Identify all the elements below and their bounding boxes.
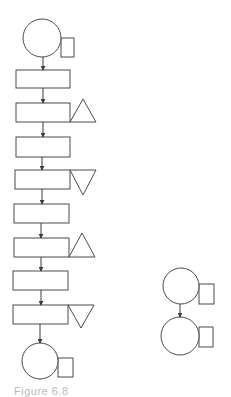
- triangle-down-icon: [70, 170, 96, 195]
- main-process-chain: [13, 19, 96, 379]
- storage-tab: [199, 284, 214, 304]
- process-step-box: [14, 238, 69, 257]
- storage-tab: [61, 38, 74, 57]
- storage-tab: [58, 358, 73, 377]
- process-step-box: [13, 271, 68, 290]
- process-step-box: [14, 204, 69, 223]
- process-step-box: [16, 70, 70, 88]
- side-node-2: [161, 317, 213, 355]
- process-step-box: [13, 305, 68, 324]
- start-node: [23, 19, 74, 57]
- triangle-up-icon: [70, 99, 96, 122]
- figure-caption: Figure 6.8: [14, 385, 69, 397]
- side-node-1: [163, 268, 214, 304]
- process-step-box: [15, 170, 70, 189]
- end-node: [22, 343, 73, 379]
- side-process-chain: [161, 268, 214, 355]
- storage-tab: [199, 327, 213, 347]
- operation-circle: [161, 317, 199, 355]
- operation-circle: [23, 19, 61, 57]
- process-step-box: [16, 137, 70, 157]
- operation-circle: [22, 343, 58, 379]
- operation-circle: [163, 268, 199, 304]
- triangle-down-icon: [68, 305, 94, 328]
- triangle-up-icon: [69, 233, 95, 257]
- process-step-box: [16, 103, 70, 122]
